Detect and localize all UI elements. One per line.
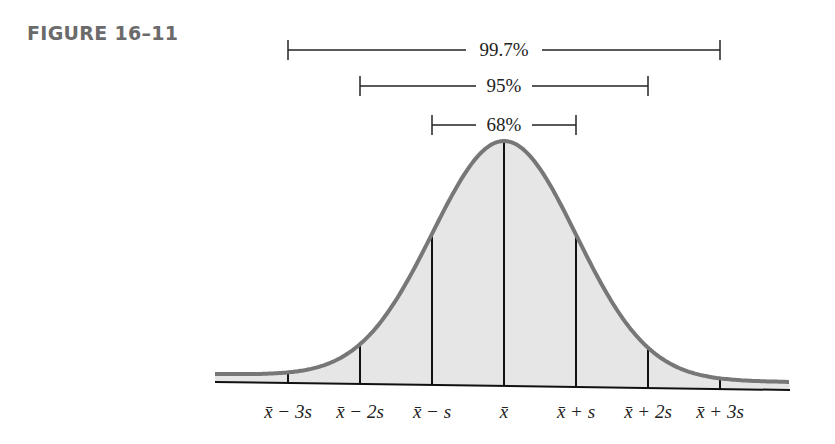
interval-label: 99.7% bbox=[479, 39, 528, 60]
tick-label: x̄ + 2s bbox=[623, 401, 672, 422]
interval-brackets: 68%95%99.7% bbox=[288, 39, 720, 135]
tick-label: x̄ + s bbox=[556, 401, 595, 422]
tick-label: x̄ + 3s bbox=[695, 401, 744, 422]
tick-label: x̄ − 2s bbox=[335, 401, 384, 422]
normal-curve-chart: 68%95%99.7% x̄ − 3sx̄ − 2sx̄ − sx̄x̄ + s… bbox=[0, 0, 835, 444]
curve-fill bbox=[215, 141, 790, 390]
tick-label: x̄ − 3s bbox=[263, 401, 312, 422]
tick-labels: x̄ − 3sx̄ − 2sx̄ − sx̄x̄ + sx̄ + 2sx̄ + … bbox=[263, 401, 744, 422]
interval-label: 95% bbox=[487, 75, 522, 96]
tick-label: x̄ − s bbox=[412, 401, 451, 422]
tick-label: x̄ bbox=[499, 401, 509, 422]
interval-label: 68% bbox=[487, 114, 522, 135]
